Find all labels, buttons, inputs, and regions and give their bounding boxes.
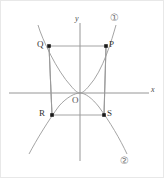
y-axis-label: y [75,15,79,23]
curve-1-label: ① [110,13,119,23]
origin-label: O [72,96,79,105]
point-label-r: R [39,109,45,118]
point-marker-r [50,113,54,117]
figure-canvas [1,1,164,178]
geometry-figure: x y O Q P R S ① ② [0,0,164,178]
point-marker-p [104,44,108,48]
point-label-q: Q [37,40,44,49]
point-label-p: P [109,40,114,49]
curve-2-label: ② [120,156,129,166]
point-label-s: S [107,109,112,118]
point-marker-s [102,113,106,117]
x-axis-label: x [151,86,155,94]
point-marker-q [47,44,51,48]
